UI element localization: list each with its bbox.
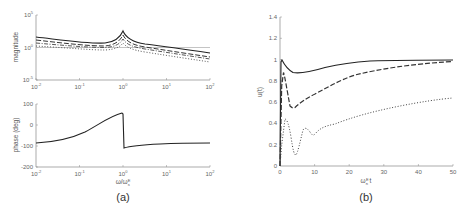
caption-b: (b) bbox=[359, 191, 372, 203]
response-xlabel: ωnEt bbox=[361, 177, 372, 186]
response-plot: 0 0.2 0.4 0.6 0.8 1 1.2 1.4 0 10 20 30 4… bbox=[256, 14, 457, 203]
series-dotted bbox=[280, 98, 453, 166]
series-phase bbox=[36, 113, 210, 148]
series-dotted bbox=[36, 43, 210, 62]
svg-text:40: 40 bbox=[415, 169, 422, 175]
series-dashed bbox=[280, 62, 453, 167]
magnitude-plot: 105 100 10-5 10-2 10-1 100 101 102 magni… bbox=[12, 10, 215, 90]
svg-text:101: 101 bbox=[162, 82, 172, 90]
phase-ylabel: phase (deg) bbox=[12, 118, 20, 153]
svg-text:1.2: 1.2 bbox=[269, 35, 278, 41]
phase-ytick-1: 100 bbox=[23, 101, 34, 107]
phase-ytick-3: -100 bbox=[21, 143, 34, 149]
response-ylabel: u(t) bbox=[256, 87, 264, 97]
response-yticks: 0 0.2 0.4 0.6 0.8 1 1.2 1.4 bbox=[269, 14, 278, 169]
svg-text:30: 30 bbox=[380, 169, 387, 175]
svg-text:0: 0 bbox=[274, 163, 278, 169]
svg-text:0.8: 0.8 bbox=[269, 78, 278, 84]
svg-text:1: 1 bbox=[274, 57, 278, 63]
figure: 105 100 10-5 10-2 10-1 100 101 102 magni… bbox=[0, 0, 466, 212]
svg-text:100: 100 bbox=[119, 82, 129, 90]
svg-text:100: 100 bbox=[119, 169, 129, 177]
response-axes bbox=[280, 17, 453, 166]
magnitude-ylabel: magnitude bbox=[12, 31, 20, 62]
svg-text:102: 102 bbox=[206, 169, 216, 177]
phase-ytick-2: 0 bbox=[30, 122, 34, 128]
mag-ytick-1: 105 bbox=[24, 10, 34, 18]
svg-text:10: 10 bbox=[311, 169, 318, 175]
mag-ytick-3: 10-5 bbox=[23, 75, 34, 83]
svg-text:0.2: 0.2 bbox=[269, 142, 278, 148]
svg-text:50: 50 bbox=[450, 169, 457, 175]
phase-plot: 100 0 -100 -200 10-2 10-1 100 101 102 ω/… bbox=[12, 101, 215, 203]
svg-text:0.4: 0.4 bbox=[269, 120, 278, 126]
svg-text:102: 102 bbox=[206, 82, 216, 90]
series-solid bbox=[280, 60, 453, 166]
mag-xticks: 10-2 10-1 100 101 102 bbox=[31, 82, 215, 90]
response-xticks: 0 10 20 30 40 50 bbox=[278, 169, 457, 175]
svg-text:0.6: 0.6 bbox=[269, 99, 278, 105]
svg-text:10-1: 10-1 bbox=[74, 82, 85, 90]
phase-ytick-4: -200 bbox=[21, 164, 34, 170]
svg-text:1.4: 1.4 bbox=[269, 14, 278, 20]
phase-xticks: 10-2 10-1 100 101 102 bbox=[31, 169, 215, 177]
svg-text:10-2: 10-2 bbox=[31, 82, 42, 90]
svg-text:20: 20 bbox=[346, 169, 353, 175]
caption-a: (a) bbox=[116, 191, 129, 203]
svg-text:10-1: 10-1 bbox=[74, 169, 85, 177]
mag-ytick-2: 100 bbox=[24, 43, 34, 51]
svg-text:101: 101 bbox=[162, 169, 172, 177]
phase-xlabel: ω/ωsE bbox=[116, 178, 131, 187]
svg-text:10-2: 10-2 bbox=[31, 169, 42, 177]
svg-text:0: 0 bbox=[278, 169, 282, 175]
